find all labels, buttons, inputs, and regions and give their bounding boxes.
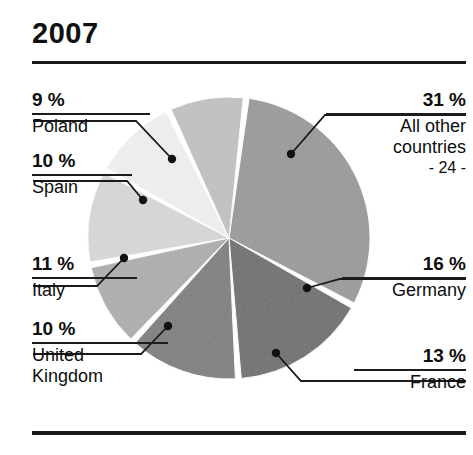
leader-dot-spain <box>139 196 147 204</box>
callout-label-france: 13 % France <box>354 345 466 393</box>
callout-label-germany: 16 % Germany <box>342 253 466 301</box>
callout-percent-italy: 11 % <box>32 253 137 275</box>
leader-dot-france <box>272 349 280 357</box>
callout-name-france: France <box>354 372 466 393</box>
callout-name-spain: Spain <box>32 177 132 198</box>
callout-label-all-other-countries: 31 % All other countries - 24 - <box>326 89 466 178</box>
callout-name-poland: Poland <box>32 116 150 137</box>
callout-label-united-kingdom: 10 % United Kingdom <box>32 318 168 387</box>
callout-underline-france <box>354 369 466 371</box>
callout-underline-united-kingdom <box>32 342 168 344</box>
callout-percent-france: 13 % <box>354 345 466 367</box>
leader-dot-poland <box>168 155 176 163</box>
callout-name-italy: Italy <box>32 280 137 301</box>
callout-percent-all-other-countries: 31 % <box>326 89 466 111</box>
callout-subnote-all-other-countries: - 24 - <box>326 158 466 178</box>
callout-name-germany: Germany <box>342 280 466 301</box>
callout-underline-italy <box>32 277 137 279</box>
callout-percent-poland: 9 % <box>32 89 150 111</box>
leader-dot-allother <box>287 150 295 158</box>
callout-name-united-kingdom: United Kingdom <box>32 345 168 387</box>
callout-underline-germany <box>342 277 466 279</box>
callout-percent-united-kingdom: 10 % <box>32 318 168 340</box>
callout-underline-poland <box>32 113 150 115</box>
callout-label-poland: 9 % Poland <box>32 89 150 137</box>
callout-label-spain: 10 % Spain <box>32 150 132 198</box>
callout-percent-spain: 10 % <box>32 150 132 172</box>
callout-underline-spain <box>32 174 132 176</box>
callout-underline-all-other-countries <box>326 113 466 115</box>
leader-dot-germany <box>303 284 311 292</box>
chart-page: 2007 9 % Poland 10 % S <box>0 0 473 455</box>
callout-name-all-other-countries: All other countries <box>326 116 466 158</box>
callout-percent-germany: 16 % <box>342 253 466 275</box>
callout-label-italy: 11 % Italy <box>32 253 137 301</box>
